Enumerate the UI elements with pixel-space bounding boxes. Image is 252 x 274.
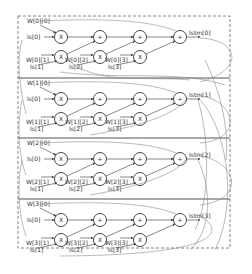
- input-label-is0: Is[0]: [27, 155, 40, 162]
- row-0: W[0][0]Is[0]X+++Istm[0]XW[0][1]Is[1]XW[0…: [26, 17, 211, 70]
- weight-label-0-1: W[0][1]: [26, 56, 49, 63]
- multiply-node-label: X: [98, 115, 102, 122]
- multiply-node-label: X: [98, 236, 102, 243]
- weight-label-3-2: W[3][2]: [65, 239, 88, 246]
- multiply-node-label: X: [138, 53, 142, 60]
- multiply-node-label: X: [59, 236, 63, 243]
- edge: [40, 147, 56, 155]
- edge: [106, 224, 135, 237]
- edge: [67, 103, 95, 116]
- edge: [146, 103, 175, 116]
- edge: [67, 224, 95, 237]
- add-node-label: +: [137, 216, 142, 223]
- edge: [146, 224, 175, 237]
- weight-label-0-3: W[0][3]: [105, 56, 128, 63]
- row-3: W[3][0]Is[0]X+++Istm[3]XW[3][1]Is[1]XW[3…: [26, 200, 211, 253]
- multiply-node-label: X: [59, 95, 63, 102]
- add-node-label: +: [177, 95, 182, 102]
- row-2: W[2][0]Is[0]X+++Istm[2]XW[2][1]Is[1]XW[2…: [26, 139, 211, 192]
- multiply-node-label: X: [98, 53, 102, 60]
- input-label-is0: Is[0]: [27, 216, 40, 223]
- edge: [67, 41, 95, 54]
- add-node-label: +: [177, 33, 182, 40]
- edge: [106, 41, 135, 54]
- multiply-node-label: X: [138, 115, 142, 122]
- weight-label-2-1: W[2][1]: [26, 178, 49, 185]
- edge: [40, 25, 56, 33]
- feedback-curves: [19, 38, 232, 256]
- weight-label-2-3: W[2][3]: [105, 178, 128, 185]
- weight-label-3-1: W[3][1]: [26, 239, 49, 246]
- weight-label-1-3: W[1][3]: [105, 118, 128, 125]
- row-1: W[1][0]Is[0]X+++Istm[1]XW[1][1]Is[1]XW[1…: [26, 79, 211, 132]
- diagram-canvas: W[0][0]Is[0]X+++Istm[0]XW[0][1]Is[1]XW[0…: [0, 0, 252, 274]
- multiply-node-label: X: [98, 175, 102, 182]
- edge: [146, 41, 175, 54]
- feedback-edge: [40, 82, 176, 93]
- multiply-node-label: X: [59, 33, 63, 40]
- add-node-label: +: [137, 155, 142, 162]
- weight-label-1-1: W[1][1]: [26, 118, 49, 125]
- edge: [40, 87, 56, 95]
- input-label-is0: Is[0]: [27, 95, 40, 102]
- output-label: Istm[2]: [189, 151, 211, 158]
- add-node-label: +: [137, 95, 142, 102]
- multiply-node-label: X: [59, 216, 63, 223]
- feedback-edge: [40, 20, 176, 31]
- multiply-node-label: X: [59, 155, 63, 162]
- feedback-edge: [40, 142, 176, 153]
- multiply-node-label: X: [138, 175, 142, 182]
- add-node-label: +: [137, 33, 142, 40]
- edge: [40, 208, 56, 216]
- multiply-node-label: X: [59, 175, 63, 182]
- multiply-node-label: X: [138, 236, 142, 243]
- add-node-label: +: [97, 33, 102, 40]
- add-node-label: +: [97, 95, 102, 102]
- edge: [106, 163, 135, 176]
- output-label: Istm[1]: [189, 91, 211, 98]
- input-label-is0: Is[0]: [27, 33, 40, 40]
- weight-label-1-2: W[1][2]: [65, 118, 88, 125]
- add-node-label: +: [97, 155, 102, 162]
- weight-label-0-2: W[0][2]: [65, 56, 88, 63]
- add-node-label: +: [177, 155, 182, 162]
- edge: [67, 163, 95, 176]
- output-label: Istm[0]: [189, 29, 211, 36]
- multiply-node-label: X: [59, 115, 63, 122]
- edge: [106, 103, 135, 116]
- weight-label-3-3: W[3][3]: [105, 239, 128, 246]
- add-node-label: +: [97, 216, 102, 223]
- multiply-node-label: X: [59, 53, 63, 60]
- feedback-edge: [40, 203, 176, 214]
- weight-label-2-2: W[2][2]: [65, 178, 88, 185]
- add-node-label: +: [177, 216, 182, 223]
- edge: [146, 163, 175, 176]
